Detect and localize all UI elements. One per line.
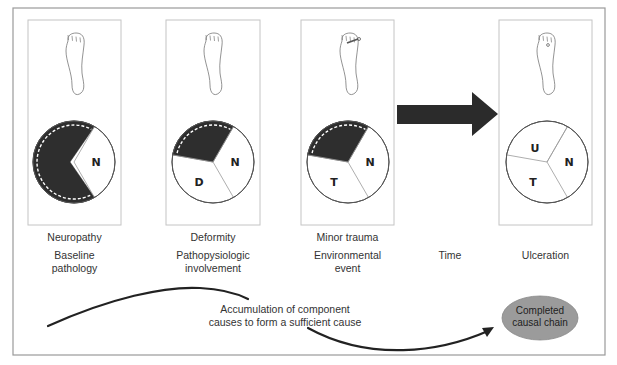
stage-subtitle-minor-trauma: Environmental event bbox=[290, 249, 405, 275]
component-pie-neuropathy: N bbox=[33, 121, 115, 203]
segment-label-N: N bbox=[230, 156, 239, 169]
accumulation-curve-right bbox=[308, 328, 488, 350]
stage-title-minor-trauma: Minor trauma bbox=[290, 231, 405, 244]
stage-subtitle-neuropathy: Baseline pathology bbox=[28, 249, 121, 275]
stage-subtitle-deformity: Pathopysiologic involvement bbox=[148, 249, 278, 275]
segment-label-T: T bbox=[529, 176, 537, 189]
time-label: Time bbox=[410, 249, 490, 262]
segment-label-T: T bbox=[330, 176, 338, 189]
segment-label-N: N bbox=[365, 156, 374, 169]
segment-label-N: N bbox=[564, 156, 573, 169]
completed-causal-chain-label: Completed causal chain bbox=[500, 305, 580, 329]
stage-subtitle-ulceration: Ulceration bbox=[499, 249, 592, 262]
causal-pathway-diagram: NNDNTNTU Neuropathy Baseline pathology D… bbox=[0, 0, 617, 365]
stage-title-neuropathy: Neuropathy bbox=[28, 231, 121, 244]
segment-label-U: U bbox=[531, 142, 540, 155]
stage-title-deformity: Deformity bbox=[148, 231, 278, 244]
component-pie-ulceration: NTU bbox=[506, 121, 588, 203]
segment-label-D: D bbox=[194, 176, 203, 189]
accumulation-label: Accumulation of component causes to form… bbox=[195, 303, 375, 329]
segment-label-N: N bbox=[91, 156, 100, 169]
component-pie-deformity: ND bbox=[172, 121, 254, 203]
time-arrow-icon bbox=[397, 92, 498, 136]
component-pie-minor-trauma: NT bbox=[307, 121, 389, 203]
